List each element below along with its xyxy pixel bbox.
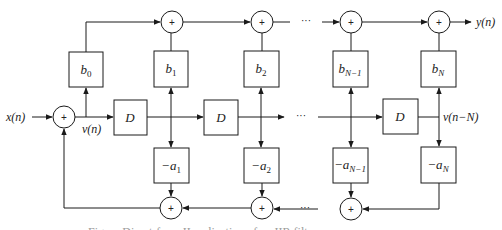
ellipsis-top: ··· — [301, 15, 311, 26]
figure-caption: Figure Direct-form II realization of an … — [88, 225, 317, 230]
plus-sign: + — [348, 204, 354, 215]
plus-sign: + — [168, 203, 174, 214]
plus-sign: + — [259, 203, 265, 214]
plus-sign: + — [436, 17, 442, 28]
plus-sign: + — [259, 17, 265, 28]
last-state-label: v(n−N) — [443, 110, 478, 124]
feedback-line — [64, 129, 160, 208]
delay-label: D — [124, 110, 135, 125]
state-label: v(n) — [82, 122, 101, 136]
direct-form-ii-diagram: + + + + + + + + ··· ··· ··· x(n) y(n) v(… — [0, 0, 502, 230]
ellipsis-bottom: ··· — [300, 202, 310, 213]
output-label: y(n) — [475, 15, 495, 29]
delay-label: D — [394, 109, 405, 124]
diagram-svg: + + + + + + + + ··· ··· ··· x(n) y(n) v(… — [0, 0, 502, 230]
plus-sign: + — [61, 112, 67, 123]
ellipsis-middle: ··· — [296, 110, 306, 121]
delay-label: D — [215, 110, 226, 125]
input-label: x(n) — [5, 110, 25, 124]
plus-sign: + — [348, 17, 354, 28]
aN-to-adder — [363, 183, 439, 209]
b0-to-adder — [86, 22, 160, 52]
plus-sign: + — [169, 17, 175, 28]
